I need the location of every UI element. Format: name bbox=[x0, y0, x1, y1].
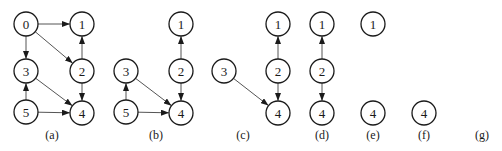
node-label: 2 bbox=[79, 64, 86, 79]
panel-caption: (b) bbox=[149, 128, 163, 142]
node-label: 1 bbox=[370, 17, 377, 32]
panel-caption: (c) bbox=[236, 128, 249, 142]
graph-node-3: 3 bbox=[114, 59, 138, 83]
graph-node-3: 3 bbox=[14, 59, 38, 83]
node-label: 5 bbox=[23, 105, 30, 120]
graph-node-4: 4 bbox=[412, 101, 436, 125]
graph-node-2: 2 bbox=[169, 59, 193, 83]
topological-sort-diagram: 013254132541324124144 (a)(b)(c)(d)(e)(f)… bbox=[0, 0, 502, 151]
graph-node-5: 5 bbox=[114, 100, 138, 124]
graph-node-3: 3 bbox=[212, 59, 236, 83]
node-label: 4 bbox=[178, 106, 185, 121]
edge-3-to-4 bbox=[136, 78, 172, 105]
graph-node-4: 4 bbox=[266, 101, 290, 125]
node-label: 2 bbox=[319, 64, 326, 79]
graph-node-1: 1 bbox=[70, 12, 94, 36]
node-label: 1 bbox=[79, 17, 86, 32]
graph-node-4: 4 bbox=[361, 101, 385, 125]
node-label: 2 bbox=[178, 64, 185, 79]
node-label: 1 bbox=[178, 17, 185, 32]
node-label: 4 bbox=[79, 106, 86, 121]
graph-node-4: 4 bbox=[310, 101, 334, 125]
captions-layer: (a)(b)(c)(d)(e)(f)(g) bbox=[45, 128, 489, 142]
edge-3-to-4 bbox=[234, 78, 269, 105]
panel-caption: (d) bbox=[315, 128, 329, 142]
graph-node-2: 2 bbox=[70, 59, 94, 83]
node-label: 4 bbox=[319, 106, 326, 121]
graph-node-2: 2 bbox=[310, 59, 334, 83]
graph-node-1: 1 bbox=[266, 12, 290, 36]
graph-node-1: 1 bbox=[310, 12, 334, 36]
edge-3-to-4 bbox=[36, 78, 72, 105]
graph-node-2: 2 bbox=[266, 59, 290, 83]
graph-node-4: 4 bbox=[70, 101, 94, 125]
graph-node-1: 1 bbox=[361, 12, 385, 36]
node-label: 4 bbox=[421, 106, 428, 121]
graph-node-0: 0 bbox=[14, 12, 38, 36]
node-label: 1 bbox=[319, 17, 326, 32]
node-label: 3 bbox=[123, 64, 130, 79]
graph-node-1: 1 bbox=[169, 12, 193, 36]
panel-caption: (e) bbox=[366, 128, 379, 142]
edge-5-to-4 bbox=[38, 112, 70, 113]
node-label: 1 bbox=[275, 17, 282, 32]
node-label: 3 bbox=[23, 64, 30, 79]
panel-caption: (f) bbox=[418, 128, 430, 142]
panel-caption: (a) bbox=[45, 128, 58, 142]
node-label: 4 bbox=[275, 106, 282, 121]
node-label: 4 bbox=[370, 106, 377, 121]
node-label: 3 bbox=[221, 64, 228, 79]
node-label: 2 bbox=[275, 64, 282, 79]
panel-caption: (g) bbox=[475, 128, 489, 142]
graph-node-5: 5 bbox=[14, 100, 38, 124]
edge-0-to-2 bbox=[35, 32, 72, 63]
nodes-layer: 013254132541324124144 bbox=[14, 12, 436, 125]
edge-5-to-4 bbox=[138, 112, 169, 113]
graph-node-4: 4 bbox=[169, 101, 193, 125]
node-label: 0 bbox=[23, 17, 30, 32]
node-label: 5 bbox=[123, 105, 130, 120]
